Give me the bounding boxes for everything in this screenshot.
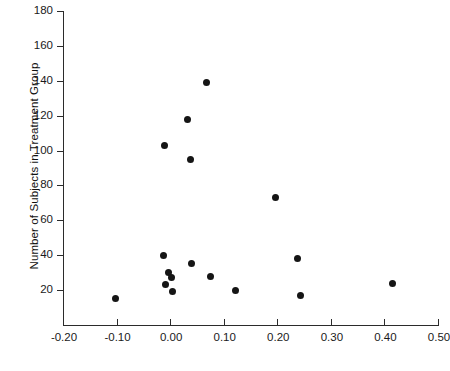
data-point [188,260,195,267]
x-tick-label: 0.00 [160,331,182,343]
y-axis-line [63,11,64,325]
data-point [232,287,239,294]
x-tick-label: -0.10 [104,331,130,343]
y-tick-label: 100 [34,144,53,156]
y-tick-label: 20 [40,283,53,295]
y-tick: 80 [57,185,64,186]
y-tick: 140 [57,81,64,82]
y-tick: 160 [57,46,64,47]
x-axis-line [63,325,438,326]
y-tick-label: 120 [34,109,53,121]
x-tick: 0.00 [170,319,171,326]
x-tick: 0.50 [438,319,439,326]
y-tick: 20 [57,290,64,291]
y-tick: 100 [57,151,64,152]
data-point [294,255,301,262]
x-tick-label: 0.40 [374,331,396,343]
x-tick: 0.30 [331,319,332,326]
y-tick-label: 180 [34,4,53,16]
data-point [389,280,396,287]
data-point [160,252,167,259]
data-point [168,274,175,281]
x-tick-label: 0.30 [321,331,343,343]
x-tick-label: 0.50 [428,331,450,343]
x-tick: 0.10 [224,319,225,326]
data-point [187,156,194,163]
y-tick-label: 80 [40,178,53,190]
data-point [112,295,119,302]
x-tick-label: 0.10 [214,331,236,343]
scatter-plot: Number of Subjects in Treatment Group 20… [0,0,450,371]
x-tick: -0.10 [117,319,118,326]
data-point [162,281,169,288]
data-point [161,142,168,149]
data-point [184,116,191,123]
x-tick: -0.20 [63,319,64,326]
y-tick-label: 140 [34,74,53,86]
y-tick-label: 160 [34,39,53,51]
x-tick-label: -0.20 [51,331,77,343]
y-tick: 180 [57,11,64,12]
data-point [169,288,176,295]
x-tick: 0.40 [384,319,385,326]
data-point [272,194,279,201]
y-tick-label: 40 [40,248,53,260]
x-tick: 0.20 [277,319,278,326]
data-point [203,79,210,86]
y-tick: 40 [57,255,64,256]
y-tick-label: 60 [40,213,53,225]
data-point [207,273,214,280]
y-tick: 60 [57,220,64,221]
x-tick-label: 0.20 [267,331,289,343]
data-point [297,292,304,299]
y-tick: 120 [57,116,64,117]
